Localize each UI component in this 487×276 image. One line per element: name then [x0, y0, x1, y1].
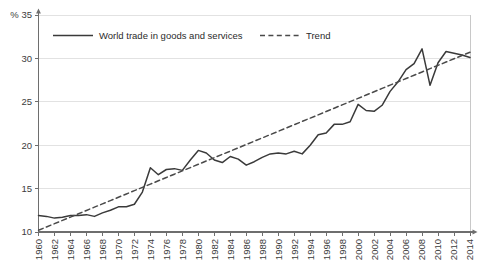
x-tick-label-2012: 2012 [448, 239, 459, 260]
world-trade-line-chart: 101520253035 196019621964196619681970197… [0, 0, 487, 276]
x-tick-label-1982: 1982 [209, 239, 220, 260]
x-tick-label-1960: 1960 [33, 239, 44, 260]
x-tick-label-1978: 1978 [177, 239, 188, 260]
x-tick-label-2000: 2000 [353, 239, 364, 260]
x-tick-label-1964: 1964 [65, 239, 76, 260]
x-tick-label-2010: 2010 [432, 239, 443, 260]
x-tick-label-1970: 1970 [113, 239, 124, 260]
x-tick-label-1974: 1974 [145, 239, 156, 260]
y-tick-label-25: 25 [21, 96, 32, 107]
unit-label: % [10, 9, 19, 20]
x-tick-label-1976: 1976 [161, 239, 172, 260]
x-tick-label-2014: 2014 [464, 239, 475, 260]
x-tick-label-2008: 2008 [416, 239, 427, 260]
y-tick-label-35: 35 [21, 9, 32, 20]
y-axis-unit-label: % [10, 9, 19, 20]
y-tick-label-10: 10 [21, 226, 32, 237]
x-tick-label-1992: 1992 [289, 239, 300, 260]
y-tick-label-20: 20 [21, 140, 32, 151]
x-tick-label-1984: 1984 [225, 239, 236, 260]
chart-container: 101520253035 196019621964196619681970197… [0, 0, 487, 276]
x-tick-label-1980: 1980 [193, 239, 204, 260]
x-tick-label-1994: 1994 [305, 239, 316, 260]
x-tick-label-2002: 2002 [369, 239, 380, 260]
x-tick-label-1962: 1962 [49, 239, 60, 260]
x-tick-label-1996: 1996 [321, 239, 332, 260]
x-tick-label-2004: 2004 [384, 239, 395, 260]
x-tick-label-2006: 2006 [400, 239, 411, 260]
x-tick-label-1972: 1972 [129, 239, 140, 260]
y-tick-label-30: 30 [21, 53, 32, 64]
legend-label-world-trade: World trade in goods and services [99, 30, 243, 41]
x-tick-label-1968: 1968 [97, 239, 108, 260]
x-tick-label-1998: 1998 [337, 239, 348, 260]
legend-label-trend: Trend [306, 30, 330, 41]
chart-background [0, 0, 487, 276]
x-tick-label-1990: 1990 [273, 239, 284, 260]
x-tick-label-1966: 1966 [81, 239, 92, 260]
x-tick-label-1986: 1986 [241, 239, 252, 260]
x-tick-label-1988: 1988 [257, 239, 268, 260]
y-tick-label-15: 15 [21, 183, 32, 194]
